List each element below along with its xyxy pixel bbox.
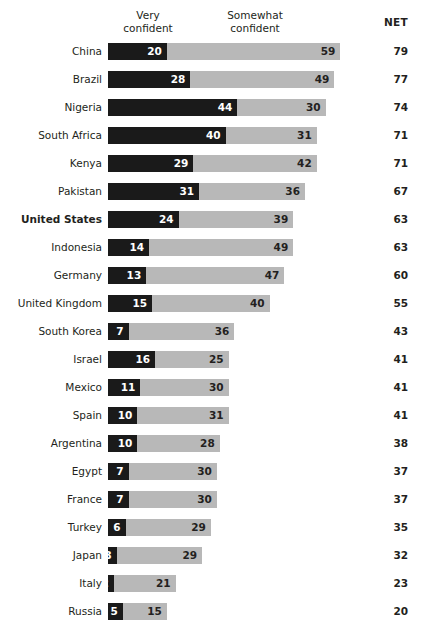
bar-segment-very-confident: 44 bbox=[108, 99, 237, 116]
stacked-bar: 1540 bbox=[108, 295, 270, 312]
bar-value-very-confident: 7 bbox=[116, 323, 128, 340]
row-label-italy: Italy bbox=[0, 575, 102, 592]
bar-value-very-confident: 14 bbox=[130, 239, 150, 256]
legend-label-very-confident: Very confident bbox=[108, 9, 188, 34]
bar-value-somewhat-confident: 49 bbox=[274, 239, 294, 256]
bar-segment-very-confident: 3 bbox=[108, 547, 117, 564]
bar-value-very-confident: 40 bbox=[206, 127, 226, 144]
bar-segment-somewhat-confident: 29 bbox=[117, 547, 202, 564]
bar-segment-very-confident: 24 bbox=[108, 211, 179, 228]
bar-value-somewhat-confident: 21 bbox=[156, 575, 176, 592]
row-net-value: 63 bbox=[350, 239, 408, 256]
bar-value-very-confident: 2 bbox=[102, 575, 114, 592]
chart-row: China205979 bbox=[0, 43, 428, 71]
row-net-value: 41 bbox=[350, 351, 408, 368]
row-label-south-korea: South Korea bbox=[0, 323, 102, 340]
bar-segment-somewhat-confident: 36 bbox=[129, 323, 235, 340]
bar-value-somewhat-confident: 29 bbox=[182, 547, 202, 564]
row-net-value: 60 bbox=[350, 267, 408, 284]
bar-segment-very-confident: 28 bbox=[108, 71, 190, 88]
bar-segment-very-confident: 20 bbox=[108, 43, 167, 60]
bar-value-somewhat-confident: 15 bbox=[147, 603, 167, 620]
bar-value-somewhat-confident: 59 bbox=[321, 43, 341, 60]
row-net-value: 67 bbox=[350, 183, 408, 200]
bar-value-very-confident: 20 bbox=[147, 43, 167, 60]
row-label-indonesia: Indonesia bbox=[0, 239, 102, 256]
stacked-bar: 1031 bbox=[108, 407, 229, 424]
stacked-bar: 1625 bbox=[108, 351, 229, 368]
chart-row: Kenya294271 bbox=[0, 155, 428, 183]
bar-value-very-confident: 31 bbox=[180, 183, 200, 200]
row-net-value: 63 bbox=[350, 211, 408, 228]
row-net-value: 79 bbox=[350, 43, 408, 60]
stacked-bar: 221 bbox=[108, 575, 176, 592]
row-net-value: 55 bbox=[350, 295, 408, 312]
stacked-bar: 2059 bbox=[108, 43, 340, 60]
row-label-turkey: Turkey bbox=[0, 519, 102, 536]
chart-row: Mexico113041 bbox=[0, 379, 428, 407]
stacked-bar: 2439 bbox=[108, 211, 293, 228]
chart-row: France73037 bbox=[0, 491, 428, 519]
bar-value-very-confident: 15 bbox=[132, 295, 152, 312]
chart-row: Indonesia144963 bbox=[0, 239, 428, 267]
bar-segment-very-confident: 11 bbox=[108, 379, 140, 396]
stacked-bar: 515 bbox=[108, 603, 167, 620]
row-label-israel: Israel bbox=[0, 351, 102, 368]
bar-value-very-confident: 24 bbox=[159, 211, 179, 228]
chart-row: Spain103141 bbox=[0, 407, 428, 435]
row-net-value: 77 bbox=[350, 71, 408, 88]
row-label-mexico: Mexico bbox=[0, 379, 102, 396]
row-label-united-states: United States bbox=[0, 211, 102, 228]
row-label-japan: Japan bbox=[0, 547, 102, 564]
bar-segment-very-confident: 40 bbox=[108, 127, 226, 144]
stacked-bar: 4031 bbox=[108, 127, 317, 144]
stacked-bar: 1449 bbox=[108, 239, 293, 256]
row-label-argentina: Argentina bbox=[0, 435, 102, 452]
bar-segment-somewhat-confident: 31 bbox=[137, 407, 228, 424]
chart-row: Russia51520 bbox=[0, 603, 428, 624]
chart-row: Pakistan313667 bbox=[0, 183, 428, 211]
row-net-value: 20 bbox=[350, 603, 408, 620]
bar-segment-very-confident: 14 bbox=[108, 239, 149, 256]
stacked-bar: 2849 bbox=[108, 71, 334, 88]
row-label-spain: Spain bbox=[0, 407, 102, 424]
stacked-bar: 329 bbox=[108, 547, 202, 564]
column-header-net: NET bbox=[350, 16, 408, 28]
chart-row: Germany134760 bbox=[0, 267, 428, 295]
row-net-value: 74 bbox=[350, 99, 408, 116]
bar-segment-somewhat-confident: 30 bbox=[129, 463, 217, 480]
row-net-value: 43 bbox=[350, 323, 408, 340]
stacked-bar: 2942 bbox=[108, 155, 317, 172]
chart-row: Turkey62935 bbox=[0, 519, 428, 547]
row-label-nigeria: Nigeria bbox=[0, 99, 102, 116]
bar-value-very-confident: 5 bbox=[110, 603, 122, 620]
bar-value-very-confident: 7 bbox=[116, 491, 128, 508]
bar-value-somewhat-confident: 25 bbox=[209, 351, 229, 368]
stacked-bar: 736 bbox=[108, 323, 234, 340]
bar-value-very-confident: 10 bbox=[118, 435, 138, 452]
bar-segment-somewhat-confident: 29 bbox=[126, 519, 211, 536]
bar-segment-very-confident: 13 bbox=[108, 267, 146, 284]
bar-segment-very-confident: 15 bbox=[108, 295, 152, 312]
bar-value-somewhat-confident: 31 bbox=[209, 407, 229, 424]
row-net-value: 37 bbox=[350, 491, 408, 508]
chart-row: Egypt73037 bbox=[0, 463, 428, 491]
bar-segment-very-confident: 5 bbox=[108, 603, 123, 620]
bar-value-somewhat-confident: 30 bbox=[197, 463, 217, 480]
bar-value-somewhat-confident: 29 bbox=[191, 519, 211, 536]
bar-segment-somewhat-confident: 31 bbox=[226, 127, 317, 144]
bar-value-somewhat-confident: 40 bbox=[250, 295, 270, 312]
stacked-bar: 1347 bbox=[108, 267, 284, 284]
bar-value-somewhat-confident: 30 bbox=[306, 99, 326, 116]
chart-row: United Kingdom154055 bbox=[0, 295, 428, 323]
row-label-south-africa: South Africa bbox=[0, 127, 102, 144]
stacked-bar: 4430 bbox=[108, 99, 326, 116]
legend-label-somewhat-confident: Somewhat confident bbox=[205, 9, 305, 34]
bar-value-somewhat-confident: 42 bbox=[297, 155, 317, 172]
chart-row: Israel162541 bbox=[0, 351, 428, 379]
bar-segment-somewhat-confident: 49 bbox=[149, 239, 293, 256]
bar-value-somewhat-confident: 36 bbox=[215, 323, 235, 340]
bar-value-somewhat-confident: 47 bbox=[265, 267, 285, 284]
row-label-brazil: Brazil bbox=[0, 71, 102, 88]
bar-segment-somewhat-confident: 40 bbox=[152, 295, 270, 312]
